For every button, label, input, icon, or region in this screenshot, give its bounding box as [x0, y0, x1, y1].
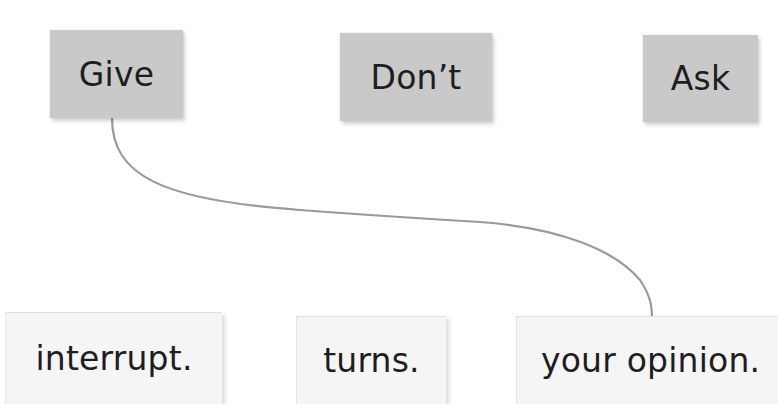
word-label: Ask [671, 59, 730, 98]
word-box-dont[interactable]: Don’t [340, 33, 492, 121]
word-label: Don’t [371, 58, 462, 97]
word-box-give[interactable]: Give [50, 30, 183, 118]
phrase-box-your-opinion[interactable]: your opinion. [516, 316, 778, 404]
phrase-box-interrupt[interactable]: interrupt. [5, 312, 222, 404]
word-box-ask[interactable]: Ask [643, 35, 758, 122]
phrase-label: interrupt. [35, 339, 192, 378]
phrase-box-turns[interactable]: turns. [296, 316, 446, 404]
phrase-label: turns. [323, 341, 420, 380]
word-label: Give [79, 55, 154, 94]
phrase-label: your opinion. [541, 341, 760, 380]
